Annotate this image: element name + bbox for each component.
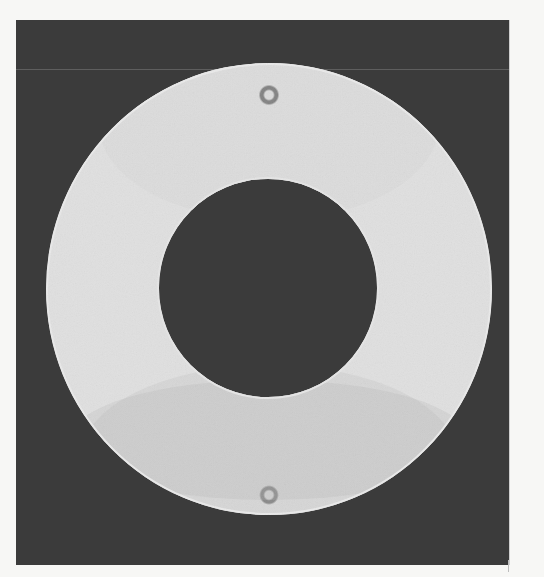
edge-tick-mark <box>508 560 509 572</box>
photoelastic-ring-image <box>0 0 544 577</box>
ring-fringes <box>40 30 536 555</box>
